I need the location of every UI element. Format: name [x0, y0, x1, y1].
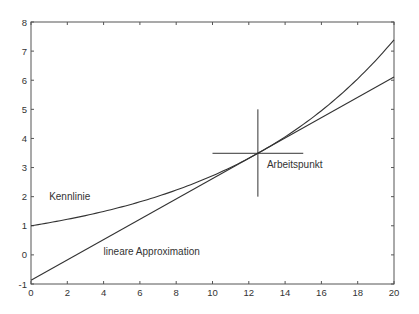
chart: 02468101214161820 -1012345678 Kennlinie …	[0, 0, 419, 314]
y-tick-label: 8	[22, 17, 27, 28]
y-tick-labels: -1012345678	[19, 17, 27, 290]
x-tick-label: 6	[137, 287, 142, 298]
x-tick-label: 4	[101, 287, 106, 298]
y-tick-label: 6	[22, 75, 27, 86]
y-tick-label: 7	[22, 46, 27, 57]
y-tick-label: 3	[22, 162, 27, 173]
operating-point-cross	[213, 109, 304, 196]
kennlinie-label: Kennlinie	[49, 191, 91, 202]
y-tick-label: -1	[19, 279, 27, 290]
x-tick-label: 18	[352, 287, 363, 298]
x-tick-label: 0	[28, 287, 33, 298]
x-tick-label: 12	[244, 287, 255, 298]
x-tick-label: 10	[207, 287, 218, 298]
x-tick-label: 14	[280, 287, 291, 298]
y-tick-label: 1	[22, 220, 27, 231]
y-tick-label: 0	[22, 249, 27, 260]
linear-approximation-line	[31, 77, 394, 280]
x-tick-label: 20	[389, 287, 400, 298]
x-tick-label: 16	[316, 287, 327, 298]
x-tick-label: 2	[65, 287, 70, 298]
arbeitspunkt-label: Arbeitspunkt	[267, 159, 323, 170]
y-tick-label: 5	[22, 104, 27, 115]
x-tick-labels: 02468101214161820	[28, 287, 399, 298]
y-tick-label: 4	[22, 133, 27, 144]
x-tick-label: 8	[174, 287, 179, 298]
approximation-label: lineare Approximation	[104, 246, 200, 257]
y-tick-label: 2	[22, 191, 27, 202]
